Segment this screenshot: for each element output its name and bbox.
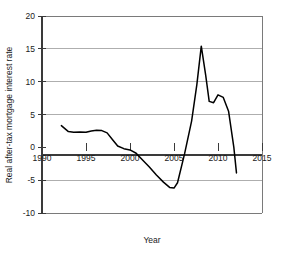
- x-tick-label: 2010: [209, 153, 228, 163]
- x-tick-label: 2005: [165, 153, 184, 163]
- y-tick-label: 0: [30, 142, 35, 152]
- y-tick-label: -10: [23, 208, 36, 218]
- x-axis-label: Year: [143, 235, 160, 245]
- y-axis-label: Real after-tax mortgage interest rate: [4, 46, 14, 183]
- y-tick-label: 5: [30, 110, 35, 120]
- y-tick-label: -5: [27, 175, 35, 185]
- x-tick-label: 1990: [33, 153, 52, 163]
- y-tick-label: 15: [26, 44, 36, 54]
- chart-background: [0, 0, 286, 253]
- y-tick-label: 20: [26, 11, 36, 21]
- line-chart: -10-505101520 199019952000200520102015 R…: [0, 0, 286, 253]
- chart-figure: -10-505101520 199019952000200520102015 R…: [0, 0, 286, 253]
- x-tick-label: 1995: [77, 153, 96, 163]
- y-tick-label: 10: [26, 77, 36, 87]
- x-tick-label: 2015: [253, 153, 272, 163]
